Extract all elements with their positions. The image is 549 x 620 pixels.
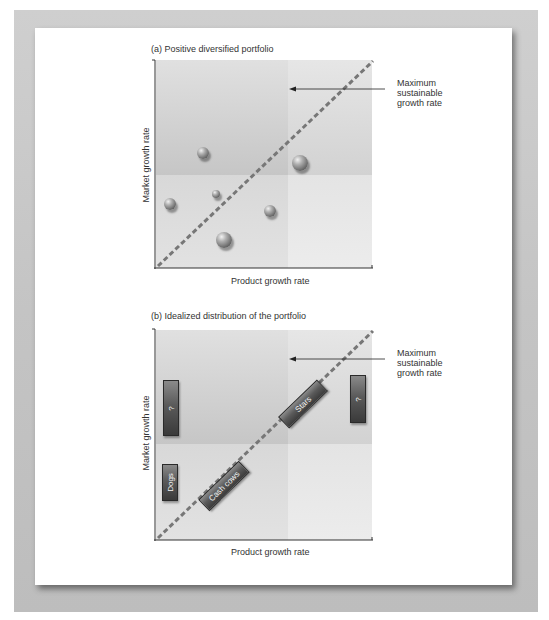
- question-mark-label: ?: [166, 406, 175, 410]
- dogs-label: Dogs: [166, 473, 175, 492]
- chart-b-y-label: Market growth rate: [141, 393, 151, 473]
- dogs-box: Dogs: [162, 464, 178, 501]
- question-mark-box-right: ?: [350, 375, 366, 423]
- chart-b-annotation: Maximum sustainable growth rate: [397, 348, 443, 378]
- question-mark-box-left: ?: [163, 380, 179, 436]
- annotation-line: sustainable: [397, 358, 443, 368]
- chart-b-axes-svg: [0, 0, 549, 620]
- annotation-line: growth rate: [397, 368, 443, 378]
- annotation-line: Maximum: [397, 348, 443, 358]
- question-mark-label: ?: [353, 397, 362, 401]
- chart-b-x-label: Product growth rate: [231, 547, 310, 557]
- chart-b-max-growth-line: [158, 331, 373, 538]
